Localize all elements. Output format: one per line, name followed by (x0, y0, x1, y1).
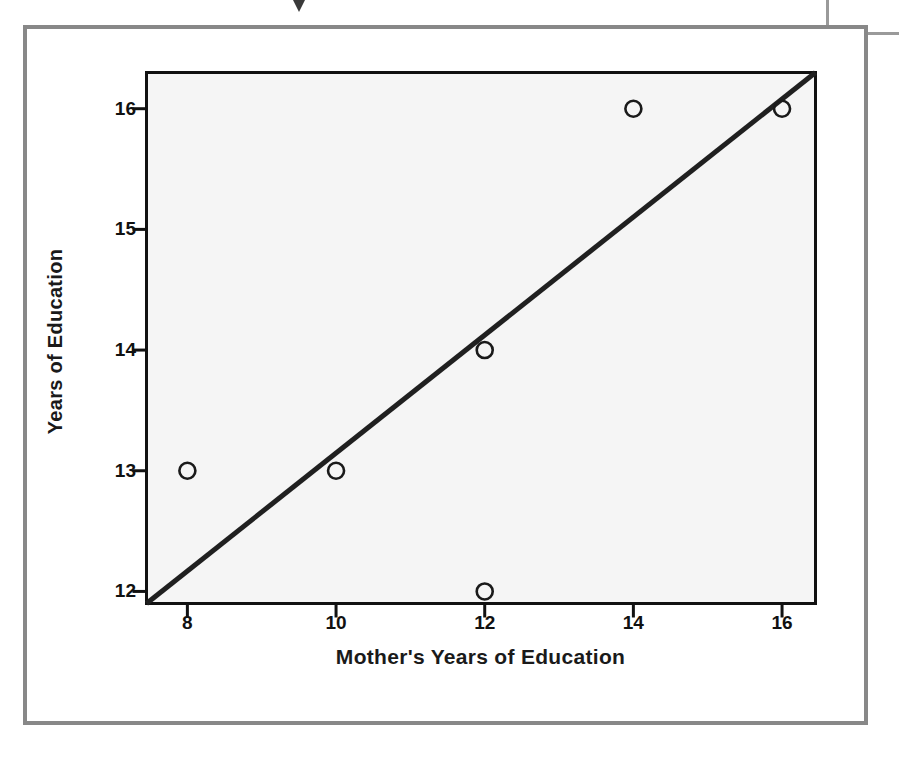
y-axis-tick-label: 16 (96, 98, 136, 120)
x-axis-title: Mother's Years of Education (146, 645, 815, 669)
x-axis-tick-label: 12 (462, 612, 508, 634)
y-axis-tick-label: 14 (96, 339, 136, 361)
y-axis-tick-label: 12 (96, 580, 136, 602)
x-axis-tick-label: 16 (759, 612, 805, 634)
x-axis-tick-label: 8 (164, 612, 210, 634)
y-axis-tick-label: 13 (96, 460, 136, 482)
x-axis-tick-label: 10 (313, 612, 359, 634)
y-axis-title: Years of Education (44, 227, 67, 457)
y-axis-tick-label: 15 (96, 218, 136, 240)
x-axis-tick-label: 14 (610, 612, 656, 634)
